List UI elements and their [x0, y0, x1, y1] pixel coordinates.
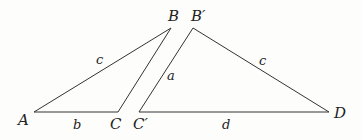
vertex-label-b: B [168, 9, 179, 24]
triangle-lines [0, 0, 362, 140]
triangle-abc [34, 28, 171, 112]
side-label-cprime-d: d [222, 118, 230, 131]
vertex-label-c: C [110, 117, 121, 132]
vertex-label-b-prime: B′ [191, 9, 205, 24]
vertex-label-a: A [18, 113, 29, 128]
side-label-bprime-d: c [259, 54, 266, 67]
side-label-ac: b [73, 118, 81, 131]
vertex-label-d: D [334, 106, 346, 121]
side-label-ab: c [96, 53, 103, 66]
side-label-cprime-bprime: a [167, 69, 175, 82]
vertex-label-c-prime: C′ [133, 117, 148, 132]
diagram-canvas: A B C C′ B′ D c b a c d [0, 0, 362, 140]
